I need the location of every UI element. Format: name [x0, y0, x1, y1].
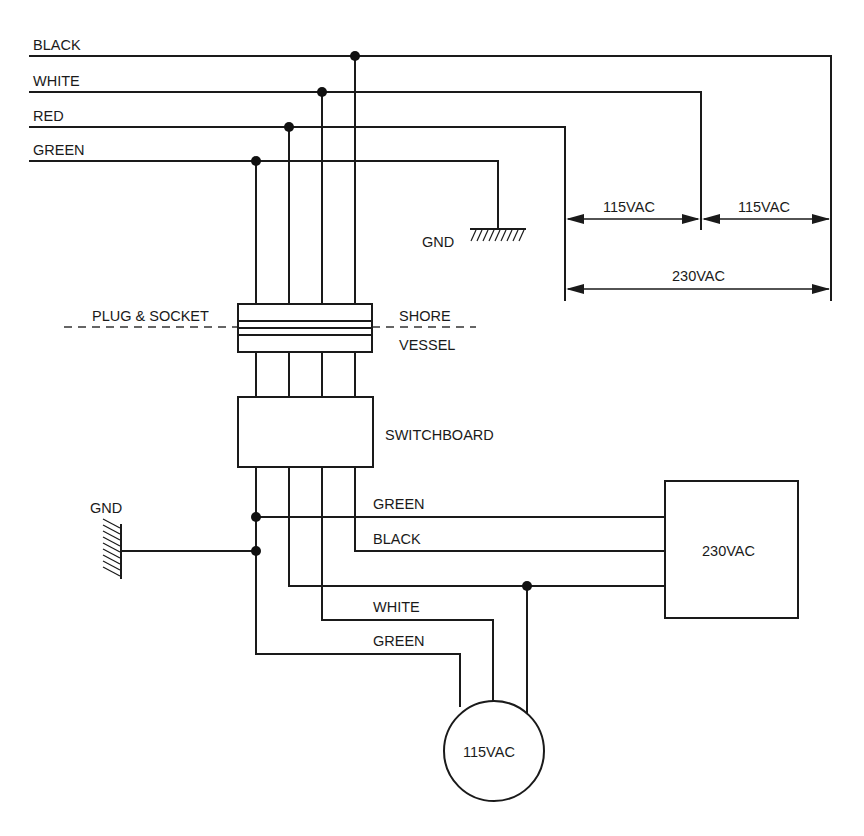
ground-icon	[471, 229, 525, 241]
label-green: GREEN	[33, 142, 85, 158]
dimension-115-right-label: 115VAC	[738, 199, 790, 215]
label-black: BLACK	[33, 37, 81, 53]
load115-white-label: WHITE	[373, 599, 420, 615]
label-white: WHITE	[33, 73, 80, 89]
vessel-red-wire	[289, 467, 665, 713]
shore-wire-red	[30, 122, 565, 304]
shore-ground-label: GND	[422, 234, 454, 250]
dimension-115-left-label: 115VAC	[603, 199, 655, 215]
shore-wire-black	[30, 51, 831, 304]
load230-black-label: BLACK	[373, 531, 421, 547]
shore-wire-green	[30, 156, 498, 304]
vessel-feed-wires	[256, 352, 355, 397]
plug-socket-label: PLUG & SOCKET	[92, 308, 209, 324]
vessel-ground-label: GND	[90, 500, 122, 516]
load230-green-label: GREEN	[373, 496, 425, 512]
shore-side-label: SHORE	[399, 308, 451, 324]
dimension-115-right	[702, 214, 830, 224]
dimension-230-label: 230VAC	[672, 268, 725, 284]
dimension-115-left	[566, 214, 700, 224]
wiring-diagram: BLACK WHITE RED GREEN GND 115VAC 115VAC …	[0, 0, 864, 836]
shore-wire-white	[30, 87, 701, 304]
dimension-230	[566, 284, 830, 294]
switchboard-box	[238, 397, 373, 467]
load-230vac-label: 230VAC	[702, 543, 755, 559]
plug-and-socket	[238, 304, 372, 352]
label-red: RED	[33, 108, 64, 124]
load115-green-label: GREEN	[373, 633, 425, 649]
load-115vac-label: 115VAC	[463, 744, 515, 760]
switchboard-label: SWITCHBOARD	[385, 427, 494, 443]
vessel-ground-icon	[103, 519, 121, 578]
vessel-side-label: VESSEL	[399, 337, 455, 353]
